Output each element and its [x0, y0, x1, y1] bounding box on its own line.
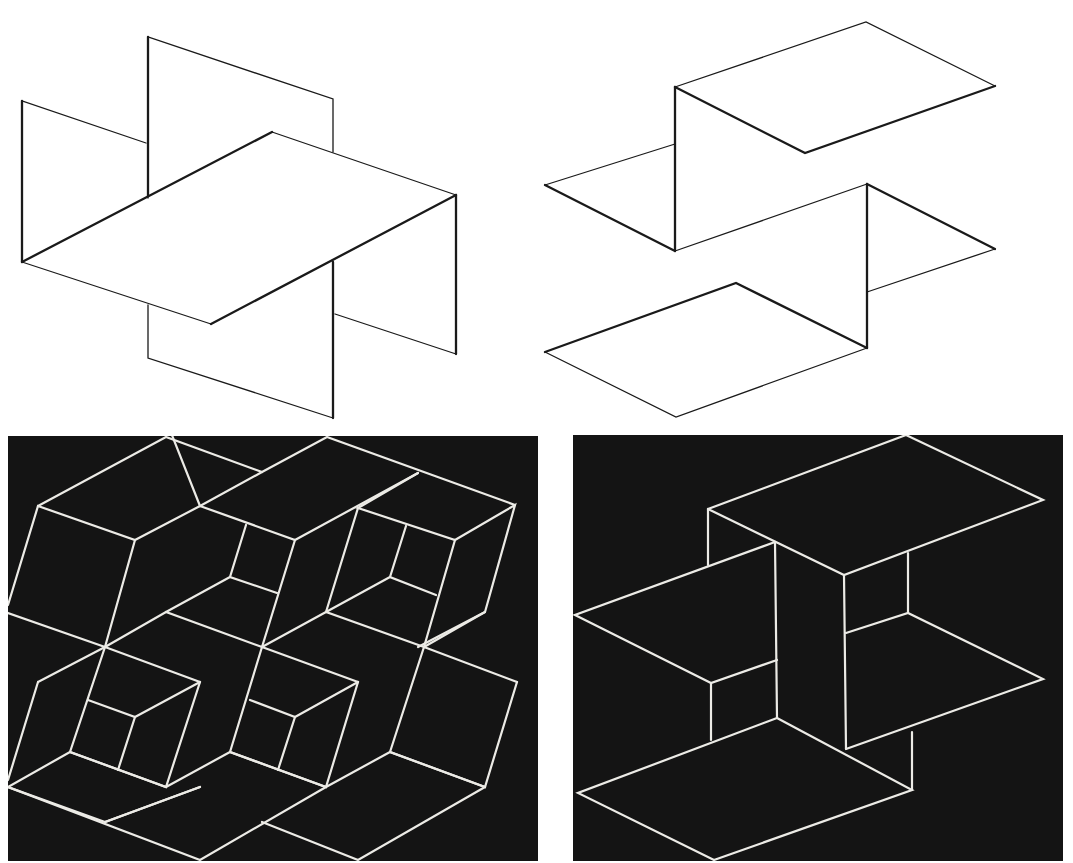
box-tiling-drawing — [8, 436, 538, 861]
panel-bottom-right — [573, 435, 1063, 861]
interlocking-structure-drawing — [573, 435, 1063, 861]
panel-top-left — [0, 0, 480, 430]
stepped-planes-drawing — [530, 0, 1073, 430]
panel-top-right — [530, 0, 1073, 430]
isometric-planes-drawing — [0, 0, 480, 430]
panel-bottom-left — [8, 436, 538, 861]
